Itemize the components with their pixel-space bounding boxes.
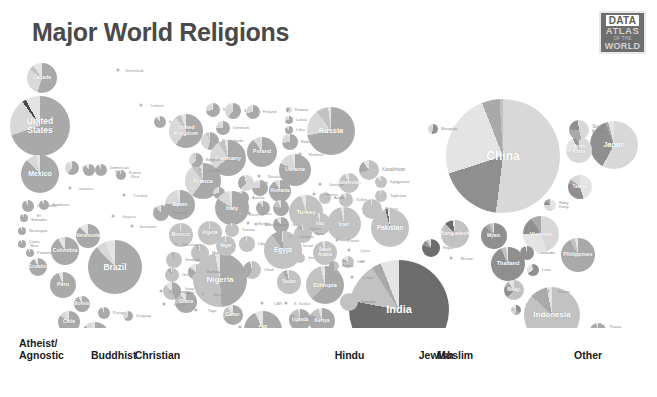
country-pie[interactable]: Kenya	[309, 308, 335, 328]
country-pie[interactable]: Indonesia	[524, 287, 580, 328]
country-pie[interactable]: Finland	[246, 105, 260, 119]
map-label: Bhutan	[461, 256, 474, 261]
map-label: S. Sudan	[294, 301, 310, 306]
map-dot	[351, 276, 354, 279]
country-pie[interactable]: Colombia	[51, 237, 79, 265]
country-pie[interactable]: Libya	[239, 236, 255, 252]
country-label: El Salvador	[31, 214, 47, 222]
country-pie[interactable]: Poland	[247, 137, 277, 167]
country-pie[interactable]: Panama	[26, 249, 34, 257]
map-label: Jamaica	[79, 186, 94, 191]
country-pie[interactable]: Taiwan	[568, 175, 592, 199]
country-pie[interactable]: Spain	[165, 190, 195, 220]
country-pie[interactable]: Hungary	[252, 180, 268, 196]
country-pie[interactable]: Bulgaria	[273, 200, 289, 216]
country-pie[interactable]: Honduras	[39, 200, 49, 210]
country-pie[interactable]: Latvia	[285, 116, 293, 124]
country-pie[interactable]: Peru	[50, 272, 76, 298]
country-pie[interactable]: United Kingdom	[169, 114, 203, 148]
country-label: Brazil	[103, 263, 126, 272]
pie-slice-group: Egypt	[264, 231, 302, 269]
country-pie[interactable]: Niger	[216, 236, 236, 256]
country-pie[interactable]: Uganda	[289, 309, 311, 328]
country-pie[interactable]: Eritrea	[329, 261, 339, 271]
country-pie[interactable]: Burkina	[188, 264, 204, 280]
country-pie[interactable]: Ethiopia	[306, 266, 344, 304]
country-pie[interactable]: Papua New Guinea	[590, 323, 606, 328]
country-pie[interactable]: Bangladesh	[441, 220, 469, 248]
country-pie[interactable]: Chad	[243, 261, 261, 279]
map-dot	[450, 257, 453, 260]
country-pie[interactable]: Brazil	[88, 240, 142, 294]
map-dot	[175, 243, 178, 246]
country-pie[interactable]: Iran	[327, 207, 361, 241]
country-pie[interactable]: Malay.	[504, 280, 524, 300]
country-pie[interactable]: El Salvador	[20, 214, 28, 222]
country-pie[interactable]: Bolivia	[74, 296, 90, 312]
country-pie[interactable]: North Korea	[566, 137, 592, 163]
country-pie[interactable]: Tunisia	[225, 223, 239, 237]
pie-slice-group: Argentina	[81, 322, 109, 328]
country-pie[interactable]: Japan	[590, 121, 638, 169]
country-pie[interactable]: South Korea	[569, 120, 589, 140]
country-pie[interactable]: Haiti	[83, 164, 95, 176]
pie-slice-group: Dominican Rep.	[95, 164, 107, 176]
country-pie[interactable]: Turkm.	[339, 193, 353, 207]
country-label: Bolivia	[75, 302, 90, 307]
country-pie[interactable]: Mongolia	[428, 124, 438, 134]
country-pie[interactable]: United States	[10, 96, 70, 156]
country-pie[interactable]: Portugal	[153, 205, 169, 221]
pie-slice-group: Chile	[58, 311, 80, 328]
country-pie[interactable]: Dominican Rep.	[95, 164, 107, 176]
country-pie[interactable]: Nepal	[422, 239, 440, 257]
country-pie[interactable]: Myan.	[481, 223, 507, 249]
country-pie[interactable]: Ireland	[154, 116, 166, 128]
country-label: Bangladesh	[441, 231, 469, 236]
country-pie[interactable]: Camer.	[223, 305, 243, 325]
country-pie[interactable]: Belgium	[189, 153, 203, 167]
pie-slice-group: Turkm.	[339, 193, 353, 207]
country-pie[interactable]: Paraguay	[98, 307, 110, 319]
country-pie[interactable]: Puerto Rico	[116, 170, 126, 180]
pie-slice-group: India	[349, 260, 449, 328]
map-label: Iceland	[151, 103, 164, 108]
country-pie[interactable]: China	[446, 99, 560, 213]
country-pie[interactable]: Kyrgyzstan	[375, 176, 387, 188]
country-pie[interactable]: Argentina	[81, 322, 109, 328]
country-pie[interactable]: Hong Kong	[544, 199, 556, 211]
country-pie[interactable]: Senegal	[166, 252, 182, 268]
pie-slice-group: United States	[10, 96, 70, 156]
pie-slice-group: Honduras	[39, 200, 49, 210]
country-pie[interactable]: Somalia	[340, 293, 358, 311]
country-pie[interactable]: Guinea	[165, 268, 179, 282]
pie-slice-group: Myan.	[481, 223, 507, 249]
country-pie[interactable]: Italy	[215, 191, 249, 225]
country-pie[interactable]: Russia	[307, 107, 355, 155]
country-pie[interactable]: Nicaragua	[18, 227, 26, 235]
country-pie[interactable]: Mali	[191, 244, 209, 262]
country-pie[interactable]: Pakistan	[371, 209, 409, 247]
country-pie[interactable]: Estonia	[286, 107, 292, 113]
country-pie[interactable]: Laos	[527, 264, 539, 276]
country-pie[interactable]: India	[349, 260, 449, 328]
country-pie[interactable]: Canada	[27, 63, 57, 93]
country-pie[interactable]: Cuba	[65, 161, 79, 175]
country-pie[interactable]: Uruguay	[123, 311, 133, 321]
country-pie[interactable]: Belarus	[282, 134, 298, 150]
country-pie[interactable]: Philippines	[561, 238, 595, 272]
country-pie[interactable]: Chile	[58, 311, 80, 328]
country-pie[interactable]: Sudan	[277, 270, 301, 294]
country-label: China	[486, 150, 519, 162]
country-pie[interactable]: Guatemala	[22, 200, 34, 212]
country-pie[interactable]: Costa Rica	[18, 240, 26, 248]
country-pie[interactable]: Lithu.	[285, 126, 293, 134]
country-label: Romania	[270, 189, 289, 194]
country-pie[interactable]: Egypt	[264, 231, 302, 269]
country-pie[interactable]: Sweden	[225, 103, 241, 119]
country-pie[interactable]: Singapore	[511, 305, 521, 315]
country-pie[interactable]: Mexico	[21, 155, 59, 193]
country-pie[interactable]: Norway	[206, 103, 220, 117]
country-pie[interactable]: Ecuador	[29, 258, 47, 276]
country-pie[interactable]: Cambodia	[520, 246, 534, 260]
country-pie[interactable]: Romania	[269, 180, 291, 202]
